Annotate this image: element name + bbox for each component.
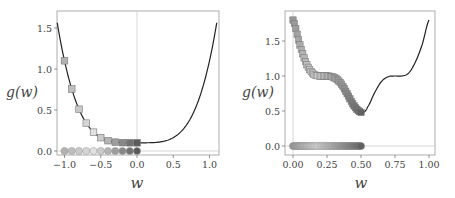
step-marker xyxy=(68,86,75,93)
step-marker xyxy=(126,139,133,146)
projection-marker xyxy=(126,147,133,154)
step-marker xyxy=(119,139,126,146)
right-chart: 0.000.250.500.751.00 0.00.51.01.5 w g(w) xyxy=(242,11,440,192)
left-chart: −1.0−0.50.00.51.0 0.00.51.01.5 w g(w) xyxy=(6,11,219,192)
projection-marker xyxy=(104,147,111,154)
left-x-ticks: −1.0−0.50.00.51.0 xyxy=(53,155,217,170)
step-marker xyxy=(97,134,104,141)
x-tick-label: 1.00 xyxy=(418,159,439,170)
step-marker xyxy=(83,120,90,127)
projection-marker xyxy=(357,142,364,149)
x-tick-label: 0.75 xyxy=(384,159,405,170)
projection-marker xyxy=(61,147,68,154)
projection-marker xyxy=(83,147,90,154)
projection-marker xyxy=(97,147,104,154)
left-y-label: g(w) xyxy=(6,84,38,100)
x-tick-label: 0.5 xyxy=(166,159,181,170)
figure: −1.0−0.50.00.51.0 0.00.51.01.5 w g(w) 0.… xyxy=(0,0,455,198)
step-marker xyxy=(294,31,300,37)
projection-marker xyxy=(133,147,140,154)
step-marker xyxy=(90,129,97,136)
y-tick-label: 1.0 xyxy=(37,64,52,75)
right-curve xyxy=(293,20,429,113)
step-marker xyxy=(76,106,83,113)
right-y-label: g(w) xyxy=(242,84,274,100)
left-y-ticks: 0.00.51.01.5 xyxy=(37,23,57,157)
step-marker xyxy=(134,140,141,147)
right-function-curve xyxy=(293,20,429,113)
y-tick-label: 0.0 xyxy=(265,141,280,152)
projection-marker xyxy=(68,147,75,154)
projection-marker xyxy=(90,147,97,154)
y-tick-label: 0.5 xyxy=(265,106,280,117)
x-tick-label: 0.0 xyxy=(129,159,144,170)
y-tick-label: 1.5 xyxy=(265,36,280,47)
y-tick-label: 1.0 xyxy=(265,71,280,82)
x-tick-label: 0.00 xyxy=(282,159,303,170)
x-tick-label: −0.5 xyxy=(89,159,112,170)
y-tick-label: 1.5 xyxy=(37,23,52,34)
left-axes-frame xyxy=(57,11,219,155)
step-marker xyxy=(112,139,119,146)
x-tick-label: 0.50 xyxy=(350,159,371,170)
x-tick-label: 1.0 xyxy=(202,159,217,170)
right-x-label: w xyxy=(355,174,368,192)
projection-marker xyxy=(75,147,82,154)
right-x-ticks: 0.000.250.500.751.00 xyxy=(282,155,439,170)
y-tick-label: 0.5 xyxy=(37,105,52,116)
left-markers xyxy=(61,58,141,155)
x-tick-label: 0.25 xyxy=(316,159,337,170)
step-marker xyxy=(358,109,364,115)
right-markers xyxy=(289,17,364,150)
projection-marker xyxy=(112,147,119,154)
right-axes-frame xyxy=(285,11,435,155)
projection-marker xyxy=(119,147,126,154)
left-x-label: w xyxy=(131,174,144,192)
y-tick-label: 0.0 xyxy=(37,146,52,157)
step-marker xyxy=(105,137,112,144)
step-marker xyxy=(61,58,68,65)
step-marker xyxy=(293,25,299,31)
x-tick-label: −1.0 xyxy=(53,159,76,170)
